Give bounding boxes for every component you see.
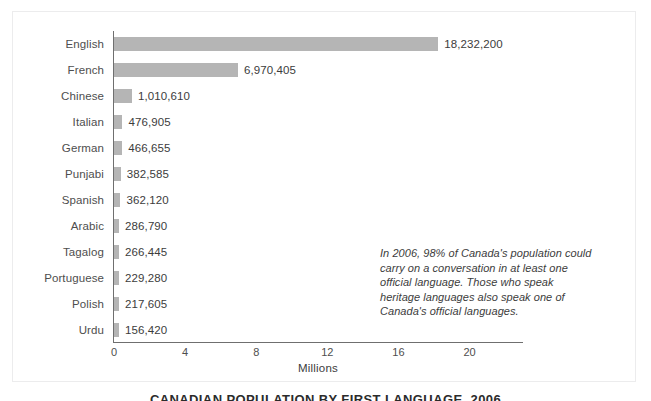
x-tick-label: 4 — [182, 346, 188, 358]
category-label: Chinese — [0, 83, 104, 109]
category-label: Tagalog — [0, 239, 104, 265]
category-label: German — [0, 135, 104, 161]
figure-caption: CANADIAN POPULATION BY FIRST LANGUAGE, 2… — [0, 392, 651, 401]
bar-row: Spanish362,120 — [0, 187, 651, 213]
bar-row: Italian476,905 — [0, 109, 651, 135]
bar — [114, 193, 120, 207]
bar — [114, 89, 132, 103]
bar-value-label: 229,280 — [125, 265, 167, 291]
bar — [114, 271, 119, 285]
x-tick-label: 16 — [392, 346, 404, 358]
bar — [114, 141, 122, 155]
bar — [114, 219, 119, 233]
bar — [114, 167, 121, 181]
bar-row: French6,970,405 — [0, 57, 651, 83]
bar — [114, 297, 119, 311]
bar-row: English18,232,200 — [0, 31, 651, 57]
bar-value-label: 1,010,610 — [138, 83, 190, 109]
category-label: Spanish — [0, 187, 104, 213]
plot-area: English18,232,200French6,970,405Chinese1… — [0, 0, 651, 401]
bar — [114, 37, 438, 51]
bar-value-label: 18,232,200 — [444, 31, 503, 57]
category-label: Portuguese — [0, 265, 104, 291]
figure-caption-clip: CANADIAN POPULATION BY FIRST LANGUAGE, 2… — [0, 392, 651, 401]
bar-value-label: 156,420 — [125, 317, 167, 343]
bar-row: Punjabi382,585 — [0, 161, 651, 187]
category-label: Polish — [0, 291, 104, 317]
bar — [114, 245, 119, 259]
x-tick-label: 0 — [111, 346, 117, 358]
category-label: English — [0, 31, 104, 57]
bar-row: Arabic286,790 — [0, 213, 651, 239]
category-label: Arabic — [0, 213, 104, 239]
category-label: Urdu — [0, 317, 104, 343]
x-tick-label: 20 — [463, 346, 475, 358]
x-tick-label: 12 — [321, 346, 333, 358]
bar-row: German466,655 — [0, 135, 651, 161]
bar-value-label: 286,790 — [125, 213, 167, 239]
bar-value-label: 6,970,405 — [244, 57, 296, 83]
bar-row: Chinese1,010,610 — [0, 83, 651, 109]
bar-value-label: 217,605 — [125, 291, 167, 317]
category-label: French — [0, 57, 104, 83]
bar-value-label: 362,120 — [126, 187, 168, 213]
chart-figure: English18,232,200French6,970,405Chinese1… — [0, 0, 651, 401]
bar — [114, 323, 119, 337]
chart-annotation: In 2006, 98% of Canada's population coul… — [380, 246, 595, 319]
bar-value-label: 466,655 — [128, 135, 170, 161]
bar-value-label: 266,445 — [125, 239, 167, 265]
bar-row: Urdu156,420 — [0, 317, 651, 343]
bar-value-label: 476,905 — [128, 109, 170, 135]
x-axis-title: Millions — [113, 362, 523, 374]
bar — [114, 63, 238, 77]
category-label: Punjabi — [0, 161, 104, 187]
x-tick-label: 8 — [253, 346, 259, 358]
bar — [114, 115, 122, 129]
bar-value-label: 382,585 — [127, 161, 169, 187]
category-label: Italian — [0, 109, 104, 135]
